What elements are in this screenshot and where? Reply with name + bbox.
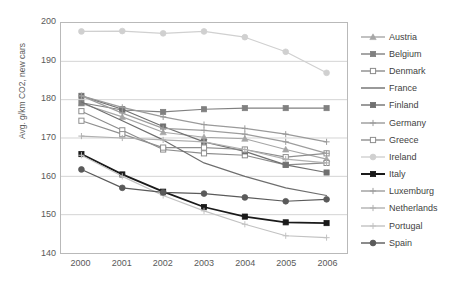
legend-marker-icon: [360, 99, 386, 111]
data-point-marker: [201, 145, 206, 150]
y-tick-label: 180: [22, 94, 56, 103]
line-chart-svg: [61, 23, 347, 253]
legend-marker-icon: [360, 48, 386, 60]
data-point-marker: [370, 103, 375, 108]
data-point-marker: [161, 145, 166, 150]
data-point-marker: [283, 49, 289, 55]
legend-item-label: Netherlands: [386, 203, 438, 213]
data-point-marker: [370, 68, 375, 73]
data-point-marker: [370, 205, 376, 211]
data-point-marker: [370, 240, 376, 246]
data-point-marker: [283, 162, 288, 167]
y-tick-label: 190: [22, 56, 56, 65]
legend-item-greece[interactable]: Greece: [360, 131, 461, 148]
y-tick-label: 150: [22, 210, 56, 219]
legend-item-label: Ireland: [386, 152, 417, 162]
data-point-marker: [324, 70, 330, 76]
legend-item-label: Portugal: [386, 221, 423, 231]
data-point-marker: [119, 185, 125, 191]
legend-item-label: Belgium: [386, 49, 422, 59]
legend-item-label: Italy: [386, 169, 406, 179]
data-point-marker: [370, 51, 375, 56]
legend-marker-icon: [360, 65, 386, 77]
chart-legend: AustriaBelgiumDenmarkFranceFinlandGerman…: [360, 28, 461, 260]
y-tick-label: 200: [22, 17, 56, 26]
data-point-marker: [370, 223, 376, 229]
legend-item-france[interactable]: France: [360, 80, 461, 97]
data-point-marker: [283, 139, 289, 145]
data-point-marker: [323, 139, 329, 145]
legend-item-label: Germany: [386, 118, 426, 128]
legend-item-finland[interactable]: Finland: [360, 97, 461, 114]
data-point-marker: [324, 170, 329, 175]
data-point-marker: [119, 28, 125, 34]
data-point-marker: [242, 221, 248, 227]
y-tick-label: 170: [22, 133, 56, 142]
legend-item-netherlands[interactable]: Netherlands: [360, 200, 461, 217]
chart-container: Avg. g/km CO2, new cars 1401501601701801…: [0, 0, 461, 291]
data-point-marker: [79, 29, 85, 35]
data-point-marker: [370, 119, 376, 125]
data-point-marker: [370, 137, 375, 142]
data-point-marker: [201, 127, 207, 133]
x-axis-tick-labels: 2000200120022003200420052006: [60, 258, 348, 274]
legend-item-label: Spain: [386, 238, 412, 248]
legend-item-belgium[interactable]: Belgium: [360, 45, 461, 62]
legend-item-spain[interactable]: Spain: [360, 234, 461, 251]
data-point-marker: [242, 195, 248, 201]
data-point-marker: [161, 109, 166, 114]
data-point-marker: [79, 118, 84, 123]
legend-marker-icon: [360, 220, 386, 232]
legend-item-label: France: [386, 83, 417, 93]
data-point-marker: [160, 190, 166, 196]
data-point-marker: [242, 131, 248, 137]
x-tick-label: 2005: [263, 258, 309, 268]
data-point-marker: [242, 214, 247, 219]
legend-item-austria[interactable]: Austria: [360, 28, 461, 45]
data-point-marker: [242, 125, 248, 131]
legend-item-germany[interactable]: Germany: [360, 114, 461, 131]
x-tick-label: 2004: [222, 258, 268, 268]
legend-marker-icon: [360, 117, 386, 129]
legend-item-label: Finland: [386, 100, 419, 110]
data-point-marker: [79, 109, 84, 114]
x-tick-label: 2003: [181, 258, 227, 268]
legend-marker-icon: [360, 202, 386, 214]
data-point-marker: [201, 191, 207, 197]
x-tick-label: 2001: [99, 258, 145, 268]
series-line: [81, 31, 326, 73]
data-point-marker: [324, 106, 329, 111]
data-point-marker: [324, 196, 330, 202]
legend-marker-icon: [360, 151, 386, 163]
y-axis-tick-labels: 140150160170180190200: [22, 0, 56, 291]
legend-item-luxemburg[interactable]: Luxemburg: [360, 183, 461, 200]
data-point-marker: [201, 122, 207, 128]
legend-item-label: Denmark: [386, 66, 426, 76]
x-tick-label: 2006: [304, 258, 350, 268]
data-point-marker: [201, 29, 207, 35]
x-tick-label: 2002: [140, 258, 186, 268]
legend-item-label: Austria: [386, 32, 417, 42]
legend-item-label: Luxemburg: [386, 186, 434, 196]
legend-marker-icon: [360, 134, 386, 146]
legend-marker-icon: [360, 31, 386, 43]
data-point-marker: [370, 171, 375, 176]
data-point-marker: [242, 106, 247, 111]
data-point-marker: [201, 107, 206, 112]
legend-marker-icon: [360, 168, 386, 180]
legend-item-ireland[interactable]: Ireland: [360, 148, 461, 165]
data-point-marker: [324, 221, 329, 226]
data-point-marker: [160, 30, 166, 36]
legend-marker-icon: [360, 82, 386, 94]
data-point-marker: [323, 235, 329, 241]
data-point-marker: [370, 154, 376, 160]
data-point-marker: [283, 198, 289, 204]
data-point-marker: [242, 34, 248, 40]
plot-area: [60, 22, 348, 254]
y-tick-label: 140: [22, 249, 56, 258]
data-point-marker: [370, 188, 376, 194]
legend-item-denmark[interactable]: Denmark: [360, 62, 461, 79]
legend-item-portugal[interactable]: Portugal: [360, 217, 461, 234]
data-point-marker: [201, 151, 206, 156]
legend-item-italy[interactable]: Italy: [360, 166, 461, 183]
